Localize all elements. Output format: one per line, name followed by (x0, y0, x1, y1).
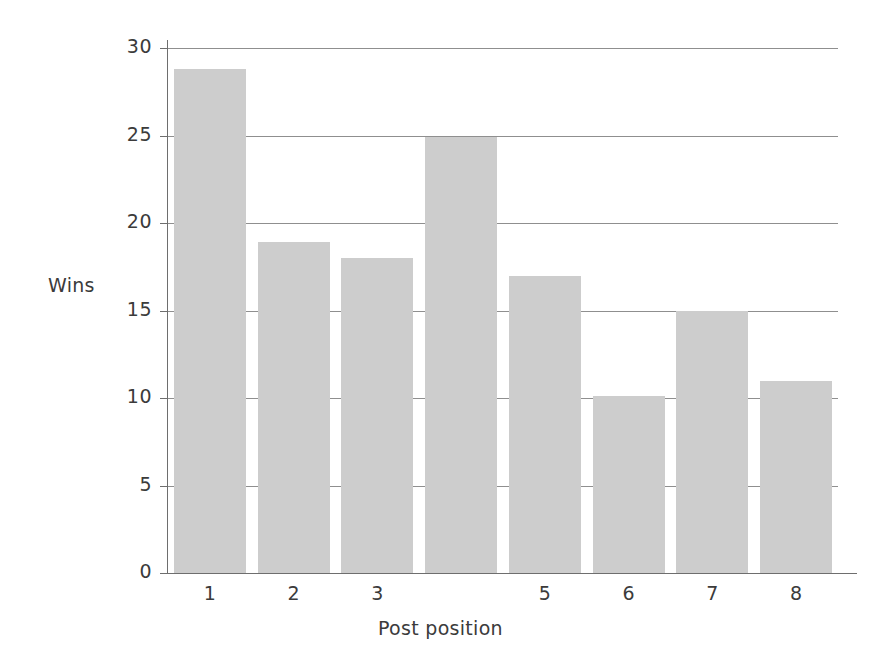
x-tick-label: 6 (589, 582, 669, 604)
y-tick-label: 30 (0, 35, 152, 57)
bar (760, 381, 832, 574)
y-tick-mark (160, 136, 167, 137)
bar (341, 258, 413, 573)
y-tick-mark (160, 573, 167, 574)
y-axis-title: Wins (48, 274, 95, 296)
bar (676, 311, 748, 574)
x-tick-label: 8 (756, 582, 836, 604)
bar (174, 69, 246, 573)
bar (509, 276, 581, 574)
y-tick-mark (160, 311, 167, 312)
y-tick-mark (160, 223, 167, 224)
x-axis-title: Post position (0, 617, 881, 639)
x-tick-label: 5 (505, 582, 585, 604)
y-tick-mark (160, 486, 167, 487)
x-tick-label: 3 (337, 582, 417, 604)
x-tick-label: 2 (254, 582, 334, 604)
y-tick-label: 20 (0, 210, 152, 232)
bar (593, 396, 665, 573)
y-tick-label: 25 (0, 123, 152, 145)
y-tick-mark (160, 48, 167, 49)
y-tick-label: 0 (0, 560, 152, 582)
y-tick-label: 10 (0, 385, 152, 407)
x-axis-line (167, 573, 857, 574)
plot-area (168, 48, 838, 573)
y-tick-label: 5 (0, 473, 152, 495)
bar-chart-figure: 051015202530 1235678 Wins Post position (0, 0, 881, 658)
bar (425, 137, 497, 573)
bar (258, 242, 330, 573)
x-tick-label: 7 (672, 582, 752, 604)
x-tick-label: 1 (170, 582, 250, 604)
y-tick-mark (160, 398, 167, 399)
y-tick-label: 15 (0, 298, 152, 320)
